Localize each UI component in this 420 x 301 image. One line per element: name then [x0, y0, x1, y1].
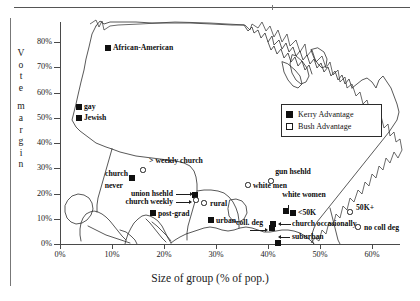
data-point-under-50k[interactable] — [290, 210, 296, 216]
y-tick-20 — [54, 194, 60, 195]
x-axis-line — [60, 244, 400, 245]
leader-line-union-hsehld — [176, 194, 191, 195]
data-point-more-than-weekly-church[interactable] — [140, 167, 145, 172]
leader-arrow-coll-deg — [265, 228, 268, 232]
y-tick-label-0: 0% — [22, 240, 52, 248]
y-axis-title-char-1: o — [14, 59, 28, 71]
data-label-rural: rural — [210, 200, 227, 209]
y-axis-title-char-5: a — [14, 112, 28, 124]
legend-label-kerry: Kerry Advantage — [298, 110, 354, 119]
leader-line-church-weekly — [176, 202, 190, 203]
data-label-more-than-weekly-church: > weekly church — [149, 157, 203, 166]
x-tick-30 — [216, 244, 217, 249]
data-label-50k-plus: 50K+ — [356, 204, 374, 213]
data-point-rural[interactable] — [201, 200, 206, 205]
x-tick-label-10: 10% — [92, 250, 132, 259]
data-point-church-never[interactable] — [129, 175, 135, 181]
data-point-african-american[interactable] — [105, 45, 111, 51]
data-label-gay: gay — [84, 103, 96, 112]
legend-item-kerry[interactable]: Kerry Advantage — [286, 108, 377, 120]
x-tick-label-20: 20% — [144, 250, 184, 259]
y-tick-10 — [54, 219, 60, 220]
data-point-50k-plus[interactable] — [347, 209, 352, 214]
data-label-no-coll-deg: no coll deg — [364, 224, 399, 233]
leader-arrow-suburban — [278, 235, 281, 239]
y-axis-title-char-7: g — [14, 135, 28, 147]
data-point-white-men[interactable] — [245, 182, 250, 187]
legend: Kerry Advantage Bush Advantage — [281, 104, 382, 137]
y-tick-label-10: 10% — [22, 215, 52, 223]
leader-line-white-women — [288, 205, 289, 211]
y-axis-title-char-4: m — [14, 100, 28, 112]
y-tick-50 — [54, 118, 60, 119]
y-tick-30 — [54, 168, 60, 169]
data-point-gay[interactable] — [76, 104, 82, 110]
x-tick-label-0: 0% — [40, 250, 80, 259]
y-tick-80 — [54, 42, 60, 43]
data-label-coll-deg: coll. deg — [236, 219, 263, 228]
leader-line-suburban — [281, 237, 290, 238]
x-tick-60 — [372, 244, 373, 249]
data-point-suburban[interactable] — [275, 240, 281, 246]
data-point-church-occasionally[interactable] — [270, 221, 276, 227]
x-tick-50 — [320, 244, 321, 249]
y-tick-label-20: 20% — [22, 190, 52, 198]
x-tick-10 — [112, 244, 113, 249]
leader-arrow-church-weekly — [189, 200, 192, 204]
y-tick-40 — [54, 143, 60, 144]
data-label-urban: urban — [216, 217, 236, 226]
x-tick-20 — [164, 244, 165, 249]
y-tick-60 — [54, 93, 60, 94]
y-axis-title-char-9: n — [14, 158, 28, 170]
leader-arrow-union-hsehld — [190, 192, 193, 196]
data-label-post-grad: post-grad — [158, 210, 190, 219]
page-header-rule — [14, 7, 410, 8]
data-label-never: never — [105, 182, 123, 191]
y-tick-70 — [54, 67, 60, 68]
x-tick-label-60: 60% — [352, 250, 392, 259]
x-tick-label-50: 50% — [300, 250, 340, 259]
y-axis-title-char-8: i — [14, 147, 28, 159]
legend-label-bush: Bush Advantage — [298, 122, 351, 131]
x-tick-0 — [60, 244, 61, 249]
data-point-post-grad[interactable] — [150, 210, 156, 216]
data-label-church-occasionally: church occasionally — [292, 220, 357, 229]
data-label-suburban: suburban — [292, 233, 324, 242]
y-tick-label-80: 80% — [22, 38, 52, 46]
y-axis-title-char-2: t — [14, 70, 28, 82]
figure-left-border — [10, 18, 11, 286]
y-axis-title: V o t e m a r g i n — [14, 47, 28, 170]
data-label-jewish: Jewish — [84, 114, 106, 123]
y-axis-title-char-0: V — [14, 47, 28, 59]
data-label-church-weekly: church weekly — [126, 198, 173, 207]
legend-item-bush[interactable]: Bush Advantage — [286, 120, 377, 132]
data-point-urban[interactable] — [208, 217, 214, 223]
data-label-under-50k: <50K — [298, 209, 316, 218]
leader-line-coll-deg — [250, 230, 266, 231]
data-label-gun-hsehld: gun hsehld — [275, 168, 311, 177]
x-axis-title: Size of group (% of pop.) — [0, 272, 420, 284]
leader-line-church-occasionally — [281, 224, 291, 225]
x-tick-label-30: 30% — [196, 250, 236, 259]
data-point-no-coll-deg[interactable] — [355, 224, 360, 229]
page-header-tick — [272, 5, 273, 10]
y-axis-title-space — [14, 93, 28, 100]
data-point-jewish[interactable] — [76, 115, 82, 121]
data-point-church-weekly[interactable] — [193, 197, 198, 202]
data-label-white-women: white women — [282, 191, 325, 200]
kerry-marker-icon — [286, 111, 293, 118]
data-label-church: church — [105, 170, 128, 179]
y-axis-title-char-3: e — [14, 82, 28, 94]
y-axis-line — [60, 22, 61, 244]
leader-arrow-church-occasionally — [278, 222, 281, 226]
chart-figure: 80% 70% 60% 50% 40% 30% 20% 10% 0% 0% 10… — [0, 0, 420, 301]
x-tick-40 — [268, 244, 269, 249]
bush-marker-icon — [286, 123, 293, 130]
y-axis-title-char-6: r — [14, 124, 28, 136]
data-label-african-american: African-American — [113, 44, 173, 53]
x-tick-label-40: 40% — [248, 250, 288, 259]
